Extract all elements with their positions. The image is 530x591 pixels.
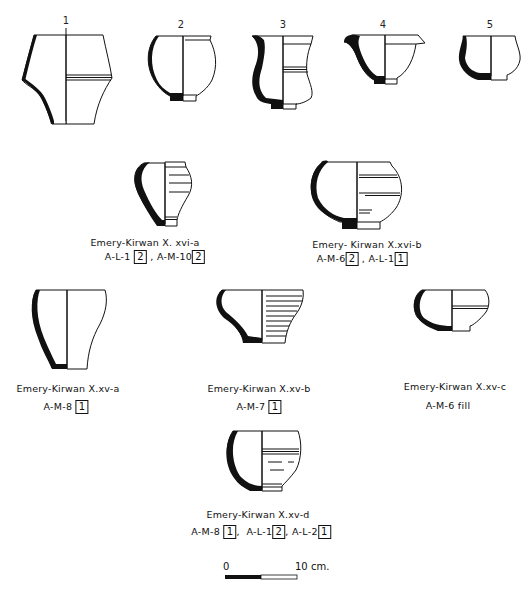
- vessel-xv-b-drawing: [216, 290, 303, 343]
- refs-xvi-a: A-L-1 2 , A-M-102: [105, 250, 205, 264]
- caption-xvi-a: Emery-Kirwan X. xvi-a: [90, 237, 199, 248]
- vessel-drawings: [0, 0, 530, 591]
- vessel-5-drawing: [459, 36, 520, 80]
- vessel-xv-d-drawing: [226, 431, 300, 491]
- separator: ,: [362, 253, 365, 264]
- vessel-3-drawing: [252, 35, 313, 109]
- vessel-1-drawing: [22, 28, 112, 124]
- refs-xv-d: A-M-8 1, A-L-12, A-L-21: [191, 525, 331, 539]
- separator: ,: [150, 251, 153, 262]
- caption-xv-c: Emery-Kirwan X.xv-c: [404, 381, 506, 392]
- count-box: 2: [134, 250, 147, 264]
- refs-xv-b: A-M-7 1: [236, 400, 281, 414]
- caption-xv-b: Emery-Kirwan X.xv-b: [207, 383, 310, 394]
- vessel-xv-a-drawing: [32, 290, 107, 369]
- ref-locus: A-L-1: [246, 526, 272, 537]
- caption-xv-d: Emery-Kirwan X.xv-d: [206, 509, 309, 520]
- scale-bar: [225, 575, 297, 579]
- separator: ,: [285, 526, 288, 537]
- count-box: 1: [269, 400, 282, 414]
- ref-locus: A-L-1: [105, 251, 131, 262]
- scale-end-label: 10 cm.: [295, 561, 329, 572]
- count-box: 1: [223, 525, 236, 539]
- scale-start-label: 0: [223, 561, 229, 572]
- caption-xv-a: Emery-Kirwan X.xv-a: [17, 383, 120, 394]
- vessel-4-drawing: [344, 35, 425, 84]
- ref-locus: A-M-8: [191, 526, 220, 537]
- ref-locus: A-M-8: [43, 401, 72, 412]
- count-box: 2: [346, 252, 359, 266]
- ref-locus: A-L-1: [369, 253, 395, 264]
- count-box: 2: [192, 250, 205, 264]
- count-box: 1: [394, 252, 407, 266]
- refs-xvi-b: A-M-62 , A-L-11: [317, 252, 408, 266]
- count-box: 1: [318, 525, 331, 539]
- vessel-number-5: 5: [480, 18, 500, 31]
- vessel-number-1: 1: [56, 14, 76, 27]
- vessel-xvi-b-drawing: [311, 161, 402, 229]
- caption-xvi-b: Emery- Kirwan X.xvi-b: [312, 239, 421, 250]
- ref-locus: A-M-6: [317, 253, 346, 264]
- vessel-2-drawing: [148, 36, 215, 101]
- vessel-number-4: 4: [373, 18, 393, 31]
- ref-locus: A-M-10: [157, 251, 192, 262]
- separator: ,: [236, 526, 239, 537]
- vessel-xv-c-drawing: [414, 290, 489, 331]
- count-box: 2: [272, 525, 285, 539]
- count-box: 1: [76, 400, 89, 414]
- vessel-number-2: 2: [171, 18, 191, 31]
- vessel-xvi-a-drawing: [135, 162, 192, 226]
- vessel-number-3: 3: [273, 18, 293, 31]
- refs-xv-a: A-M-8 1: [43, 400, 88, 414]
- ref-locus: A-L-2: [292, 526, 318, 537]
- ref-locus: A-M-7: [236, 401, 265, 412]
- refs-xv-c: A-M-6 fill: [426, 400, 471, 411]
